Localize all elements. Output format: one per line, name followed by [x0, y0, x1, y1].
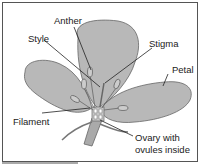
- label-ovary-line2: ovules inside: [135, 145, 190, 155]
- label-filament: Filament: [13, 117, 49, 127]
- label-ovary-line1: Ovary with: [135, 133, 180, 143]
- label-stigma: Stigma: [149, 39, 179, 49]
- label-petal: Petal: [172, 65, 194, 75]
- stem: [84, 118, 102, 146]
- label-style: Style: [28, 34, 49, 44]
- label-anther: Anther: [54, 16, 82, 26]
